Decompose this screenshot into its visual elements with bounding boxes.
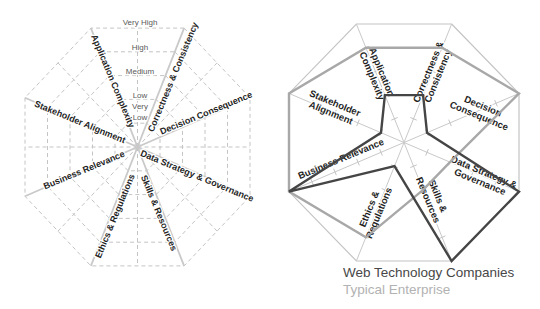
axis-label: Ethics & Regulations [93, 173, 137, 260]
axis-label: Application Complexity [89, 33, 137, 129]
legend: Web Technology Companies Typical Enterpr… [343, 264, 514, 298]
scale-label: Very High [123, 18, 158, 27]
legend-web-technology-companies: Web Technology Companies [343, 264, 514, 281]
scale-label: Low [133, 91, 148, 100]
axis-label: Data Strategy &Governance [445, 153, 519, 200]
axis-label: Correctness &Consistency [410, 40, 455, 108]
scale-label: High [132, 43, 148, 52]
axis-label: ApplicationComplexity [357, 46, 397, 102]
legend-typical-enterprise: Typical Enterprise [343, 281, 514, 298]
scale-label: VeryLow [132, 102, 148, 122]
radar-comparison-figure: Application ComplexityCorrectness & Cons… [0, 0, 540, 309]
axis-label: Skills & Resources [139, 174, 179, 253]
axis-label: DecisionConsequence [448, 89, 514, 133]
axis-label: Decision Consequence [158, 89, 253, 136]
axis-label: StakeholderAlignment [304, 87, 363, 128]
axis-label: Business Relevance [42, 149, 126, 192]
scale-label: Medium [126, 67, 155, 76]
radar-charts-canvas: Application ComplexityCorrectness & Cons… [0, 0, 540, 309]
